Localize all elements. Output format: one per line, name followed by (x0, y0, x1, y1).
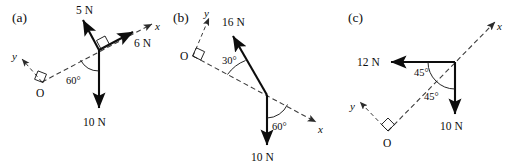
panel-b-y-axis-label: y (203, 7, 209, 19)
panel-a-origin-label: O (36, 87, 44, 99)
panel-c-origin-right-angle (382, 118, 395, 131)
panel-a-x-axis (42, 24, 152, 82)
panel-b-angle-60-arc (267, 105, 288, 119)
panel-c-angle-45-lower-arc (436, 81, 455, 89)
panel-b-angle-60-label: 60° (272, 121, 287, 132)
panel-a-x-axis-label: x (154, 20, 160, 32)
panel-b-force-10n-label: 10 N (251, 151, 274, 163)
panel-a: (a) x y O 10 N 6 N 5 N 60° (11, 4, 160, 128)
panel-b-label: (b) (173, 10, 189, 25)
panel-c-y-axis-label: y (349, 100, 355, 112)
panel-a-y-axis (22, 59, 42, 82)
panel-a-y-axis-label: y (11, 50, 17, 62)
panel-c-angle-45-upper-label: 45° (414, 67, 429, 78)
panel-b: (b) x y O 16 N 10 N 30° 60° (173, 7, 323, 163)
figure-canvas: (a) x y O 10 N 6 N 5 N 60° (0, 0, 512, 164)
force-diagram-figure: (a) x y O 10 N 6 N 5 N 60° (0, 0, 512, 164)
panel-c-x-axis-label: x (496, 20, 502, 32)
panel-a-angle-60-label: 60° (66, 75, 81, 86)
panel-c: (c) x y O 12 N 10 N 45° 45° (348, 10, 502, 149)
panel-c-force-12n-label: 12 N (357, 56, 380, 68)
panel-a-force-5n-arrow (83, 20, 99, 50)
panel-a-force-10n-label: 10 N (83, 116, 106, 128)
panel-c-x-axis (388, 22, 495, 131)
panel-a-force-5n-label: 5 N (76, 4, 94, 16)
panel-c-origin-label: O (383, 137, 391, 149)
panel-b-origin-label: O (180, 50, 188, 62)
panel-c-force-10n-label: 10 N (440, 120, 463, 132)
panel-b-force-16n-label: 16 N (222, 16, 245, 28)
panel-a-force-6n-label: 6 N (134, 37, 152, 49)
panel-c-angle-45-upper-arc (428, 62, 436, 81)
panel-b-x-axis-label: x (317, 123, 323, 135)
panel-a-angle-60-arc (81, 60, 100, 71)
panel-c-label: (c) (348, 10, 363, 25)
panel-b-angle-30-label: 30° (222, 55, 237, 66)
panel-c-angle-45-lower-label: 45° (424, 91, 439, 102)
panel-b-x-axis (193, 56, 316, 122)
panel-a-label: (a) (12, 10, 27, 25)
panel-b-force-16n-arrow (233, 36, 267, 95)
